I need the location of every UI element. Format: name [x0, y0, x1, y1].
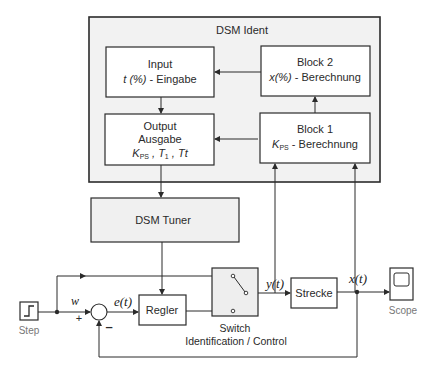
- dsm-tuner-label: DSM Tuner: [135, 214, 191, 226]
- block-1[interactable]: Block 1 KPS - Berechnung: [260, 113, 370, 163]
- switch-label-line2: Identification / Control: [185, 335, 287, 347]
- reference-signal-w: w: [38, 273, 230, 314]
- input-block-subtitle: t (%) - Eingabe: [123, 73, 196, 85]
- switch-label-line1: Switch: [220, 322, 251, 334]
- strecke-block[interactable]: Strecke: [291, 278, 337, 308]
- block-2-subtitle: x(%) - Berechnung: [268, 71, 361, 83]
- dsm-ident-title: DSM Ident: [216, 24, 268, 36]
- sum-block[interactable]: + –: [76, 304, 113, 334]
- block-diagram: DSM Ident Input t (%) - Eingabe Block 2 …: [0, 0, 434, 375]
- signal-x-label: x(t): [348, 271, 367, 286]
- step-label: Step: [19, 325, 40, 336]
- regler-label: Regler: [146, 304, 179, 316]
- output-block-subtitle: Ausgabe: [138, 133, 181, 145]
- sum-minus-sign: –: [105, 319, 112, 334]
- scope-block[interactable]: Scope: [389, 268, 418, 316]
- signal-y-label: y(t): [264, 276, 284, 291]
- block-1-title: Block 1: [297, 123, 333, 135]
- step-block[interactable]: Step: [19, 302, 40, 336]
- error-signal: e(t): [107, 294, 138, 312]
- output-block[interactable]: Output Ausgabe KPS , T1 , Tt: [105, 114, 214, 165]
- output-block-title: Output: [143, 120, 176, 132]
- strecke-label: Strecke: [295, 287, 332, 299]
- input-block-title: Input: [148, 58, 172, 70]
- block-2[interactable]: Block 2 x(%) - Berechnung: [261, 46, 370, 96]
- input-block[interactable]: Input t (%) - Eingabe: [106, 47, 214, 97]
- sum-plus-sign: +: [76, 312, 82, 324]
- control-signal-y: y(t): [258, 264, 290, 293]
- scope-label: Scope: [389, 305, 418, 316]
- scope-icon: [394, 273, 409, 286]
- signal-e-label: e(t): [114, 294, 132, 309]
- regler-block[interactable]: Regler: [139, 295, 186, 325]
- signal-w-label: w: [71, 294, 79, 308]
- dsm-tuner-block[interactable]: DSM Tuner: [91, 198, 239, 242]
- block-2-title: Block 2: [297, 56, 333, 68]
